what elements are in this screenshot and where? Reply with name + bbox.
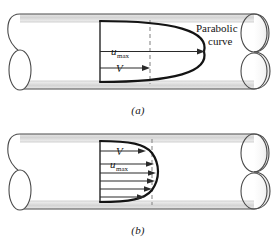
annotation-parabolic-line1: Parabolic <box>196 22 238 34</box>
annotation-parabolic-line2: curve <box>208 35 233 47</box>
figure-pipe-velocity-profiles: u max V Parabolic curve (a) <box>0 0 276 242</box>
pipe-wall-top <box>20 14 256 22</box>
pipe-left-ellipse-b <box>9 170 31 210</box>
pipe-wall-bottom-b <box>20 201 256 209</box>
panel-laminar-profile: u max V Parabolic curve <box>0 0 276 121</box>
caption-panel-b: (b) <box>0 224 276 236</box>
label-u-max-b-subscript: max <box>116 165 129 173</box>
pipe-left-ellipse <box>9 50 31 90</box>
caption-panel-a: (a) <box>0 104 276 116</box>
pipe-wall-bottom <box>20 81 256 89</box>
label-u-max-a-subscript: max <box>117 52 130 60</box>
pipe-wall-top-b <box>20 134 256 142</box>
